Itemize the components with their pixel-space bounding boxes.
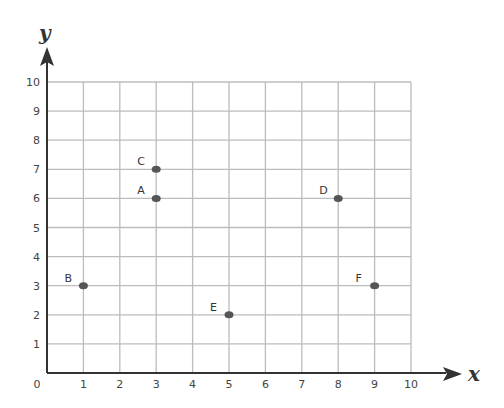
point-marker-icon — [79, 282, 88, 289]
x-tick-label: 1 — [80, 378, 87, 391]
x-tick-label: 3 — [153, 378, 160, 391]
y-tick-label: 9 — [33, 105, 40, 118]
x-tick-label: 0 — [34, 378, 41, 391]
data-point-f: F — [356, 272, 380, 290]
data-point-d: D — [319, 184, 343, 202]
data-point-e: E — [210, 301, 234, 319]
x-tick-label: 8 — [335, 378, 342, 391]
y-tick-label: 2 — [33, 309, 40, 322]
grid-lines — [47, 82, 411, 373]
point-marker-icon — [152, 166, 161, 173]
y-tick-label: 10 — [26, 76, 40, 89]
y-axis-label: y — [38, 21, 52, 45]
point-marker-icon — [334, 195, 343, 202]
y-tick-label: 4 — [33, 251, 40, 264]
point-label: B — [64, 272, 72, 285]
point-label: F — [356, 272, 362, 285]
x-tick-label: 9 — [371, 378, 378, 391]
point-marker-icon — [225, 311, 234, 318]
point-label: D — [319, 184, 327, 197]
point-marker-icon — [152, 195, 161, 202]
point-label: C — [137, 155, 145, 168]
x-tick-label: 5 — [226, 378, 233, 391]
y-tick-label: 6 — [33, 192, 40, 205]
x-tick-label: 4 — [189, 378, 196, 391]
x-tick-label: 10 — [404, 378, 418, 391]
axes: y x — [38, 21, 481, 386]
data-point-c: C — [137, 155, 161, 173]
x-tick-label: 2 — [116, 378, 123, 391]
y-tick-label: 8 — [33, 134, 40, 147]
point-label: E — [210, 301, 217, 314]
y-tick-label: 3 — [33, 280, 40, 293]
x-axis-label: x — [467, 362, 481, 386]
y-tick-label: 5 — [33, 222, 40, 235]
x-tick-label: 6 — [262, 378, 269, 391]
data-point-a: A — [137, 184, 161, 202]
point-label: A — [137, 184, 145, 197]
data-points: ABCDEF — [64, 155, 379, 318]
coordinate-plane: y x 01234567891012345678910 ABCDEF — [0, 0, 504, 408]
point-marker-icon — [370, 282, 379, 289]
y-tick-label: 1 — [33, 338, 40, 351]
x-tick-label: 7 — [298, 378, 305, 391]
y-tick-label: 7 — [33, 163, 40, 176]
data-point-b: B — [64, 272, 88, 290]
